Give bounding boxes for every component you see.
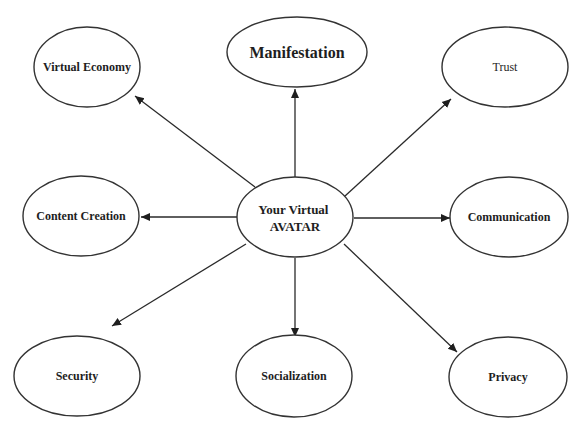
node-label-communication: Communication (468, 210, 551, 224)
center-label-line-1: Your Virtual (258, 202, 329, 217)
node-label-virtual-economy: Virtual Economy (43, 60, 131, 74)
node-trust: Trust (442, 27, 568, 107)
node-label-security: Security (56, 369, 99, 383)
arrow-to-virtual-economy (135, 96, 255, 187)
node-label-trust: Trust (493, 60, 519, 74)
node-security: Security (14, 336, 140, 416)
node-socialization: Socialization (236, 335, 352, 417)
node-label-manifestation: Manifestation (249, 44, 344, 61)
node-label-privacy: Privacy (488, 370, 527, 384)
center-node-avatar: Your Virtual AVATAR (237, 177, 353, 257)
arrow-to-security (112, 244, 246, 326)
node-communication: Communication (450, 177, 568, 257)
node-content-creation: Content Creation (23, 176, 139, 256)
node-virtual-economy: Virtual Economy (34, 27, 140, 107)
node-label-socialization: Socialization (261, 369, 327, 383)
arrow-to-trust (345, 99, 451, 196)
center-label-line-2: AVATAR (270, 219, 321, 234)
avatar-concept-diagram: Virtual EconomyManifestationTrustContent… (0, 0, 586, 436)
arrow-to-privacy (344, 244, 457, 352)
center-ellipse (237, 177, 353, 257)
node-privacy: Privacy (449, 337, 567, 417)
node-manifestation: Manifestation (227, 17, 367, 87)
node-label-content-creation: Content Creation (36, 209, 126, 223)
